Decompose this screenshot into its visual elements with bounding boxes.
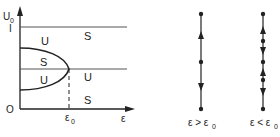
arrow-up-icon [260,26,266,34]
fixed-point [261,78,265,82]
region-label-inside-lower: U [40,74,48,86]
y-tick-top: I [9,23,12,34]
fixed-point [199,12,203,16]
phase-line-above-critical: ε > ε 0 [188,12,216,130]
critical-label-sub: 0 [71,118,75,125]
region-label-bottom-right: S [84,94,91,106]
bifurcation-diagram: U 0 I O ε ε 0 U S S U U S [3,6,135,125]
region-label-top-right: S [84,30,91,42]
phase-line-caption: ε < ε [250,117,271,128]
origin-label: O [6,104,14,115]
fixed-point [261,12,265,16]
arrow-down-icon [260,47,266,55]
phase-line-below-critical: ε < ε 0 [250,12,278,130]
arrow-up-icon [260,68,266,76]
region-label-inside-upper: S [40,56,47,68]
fixed-point [261,107,265,111]
fixed-point [261,60,265,64]
x-axis-arrow-icon [125,106,135,112]
arrow-down-icon [260,88,266,96]
region-label-above-curve: U [41,35,49,47]
region-label-middle-right: U [84,71,92,83]
fixed-point [261,39,265,43]
phase-line-caption: ε > ε [188,117,209,128]
critical-label: ε [65,112,70,123]
x-axis-label: ε [121,113,126,124]
phase-line-caption-sub: 0 [274,123,278,130]
arrow-down-icon [198,83,204,91]
diagram-canvas: U 0 I O ε ε 0 U S S U U S ε > ε 0 ε < ε [0,0,280,137]
phase-line-caption-sub: 0 [212,123,216,130]
y-axis-arrow-icon [17,6,23,16]
arrow-up-icon [198,31,204,39]
fixed-point [199,107,203,111]
fixed-point [199,60,203,64]
